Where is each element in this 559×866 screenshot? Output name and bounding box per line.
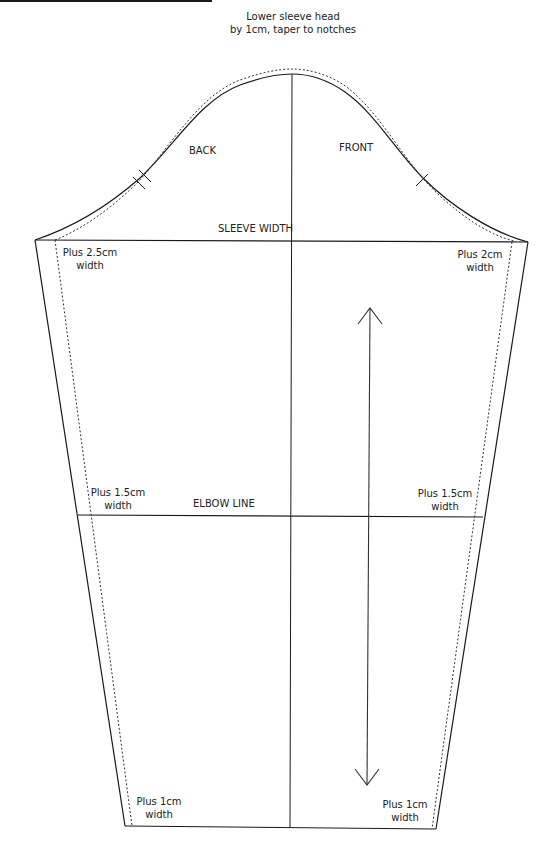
upper-right-note: Plus 2cm width [450,248,510,274]
elbow-line [78,515,483,517]
front-single-notch [416,174,428,186]
sleeve-width-line [35,240,528,242]
head-note-line2: by 1cm, taper to notches [228,23,358,36]
elbow-left-note: Plus 1.5cm width [88,486,148,512]
back-label: BACK [189,144,216,157]
front-label: FRONT [339,141,373,154]
center-line [290,74,292,828]
right-seam [436,242,528,829]
hem-right-note: Plus 1cm width [378,798,432,824]
left-seam [35,240,125,826]
back-double-notch [133,170,151,189]
sleeve-width-label: SLEEVE WIDTH [218,222,293,235]
elbow-line-label: ELBOW LINE [193,497,255,510]
upper-left-note: Plus 2.5cm width [60,246,120,272]
grainline-arrow-icon [355,308,382,785]
hem-line [125,826,436,829]
head-note-label: Lower sleeve head by 1cm, taper to notch… [228,10,358,36]
right-widened-seam-dotted [432,242,512,829]
sleeve-pattern-diagram [0,0,559,866]
lowered-sleeve-head-dotted [55,69,515,241]
head-note-line1: Lower sleeve head [228,10,358,23]
left-widened-seam-dotted [55,240,132,826]
hem-left-note: Plus 1cm width [132,795,186,821]
sleeve-head-curve [35,74,528,242]
elbow-right-note: Plus 1.5cm width [414,487,476,513]
